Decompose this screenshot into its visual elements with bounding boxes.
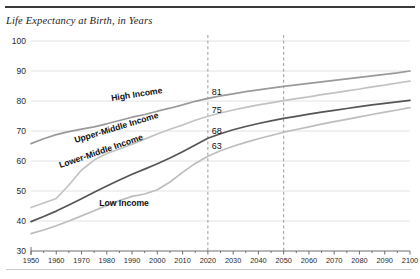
y-tick-label: 60 [4,156,26,166]
chart-root: Life Expectancy at Birth, in Years 10090… [0,0,420,279]
x-tick-label: 2060 [296,256,322,265]
x-tick-label: 1990 [119,256,145,265]
x-tick-label: 2080 [346,256,372,265]
x-tick-label: 2070 [321,256,347,265]
bottom-divider [6,269,412,270]
y-tick-label: 50 [4,186,26,196]
y-tick-label: 70 [4,126,26,136]
x-tick-label: 1960 [43,256,69,265]
value-label-upper-middle-income: 75 [212,105,222,115]
y-tick-label: 40 [4,216,26,226]
y-tick-label: 30 [4,246,26,256]
y-tick-label: 100 [4,36,26,46]
x-tick-label: 1970 [69,256,95,265]
y-tick-label: 90 [4,66,26,76]
x-tick-label: 2050 [271,256,297,265]
x-tick-label: 1980 [94,256,120,265]
value-label-lower-middle-income: 68 [212,126,222,136]
x-tick-label: 2000 [144,256,170,265]
y-tick-label: 80 [4,96,26,106]
x-tick-label: 2010 [170,256,196,265]
x-tick-label: 1950 [18,256,44,265]
x-tick-label: 2100 [397,256,420,265]
value-label-low-income: 63 [212,141,222,151]
plot-area [0,0,420,279]
value-label-high-income: 81 [212,87,222,97]
x-tick-label: 2090 [372,256,398,265]
series-label-low-income: Low Income [99,198,149,208]
x-tick-label: 2020 [195,256,221,265]
line-chart-svg [0,0,420,279]
x-tick-label: 2030 [220,256,246,265]
x-tick-label: 2040 [245,256,271,265]
